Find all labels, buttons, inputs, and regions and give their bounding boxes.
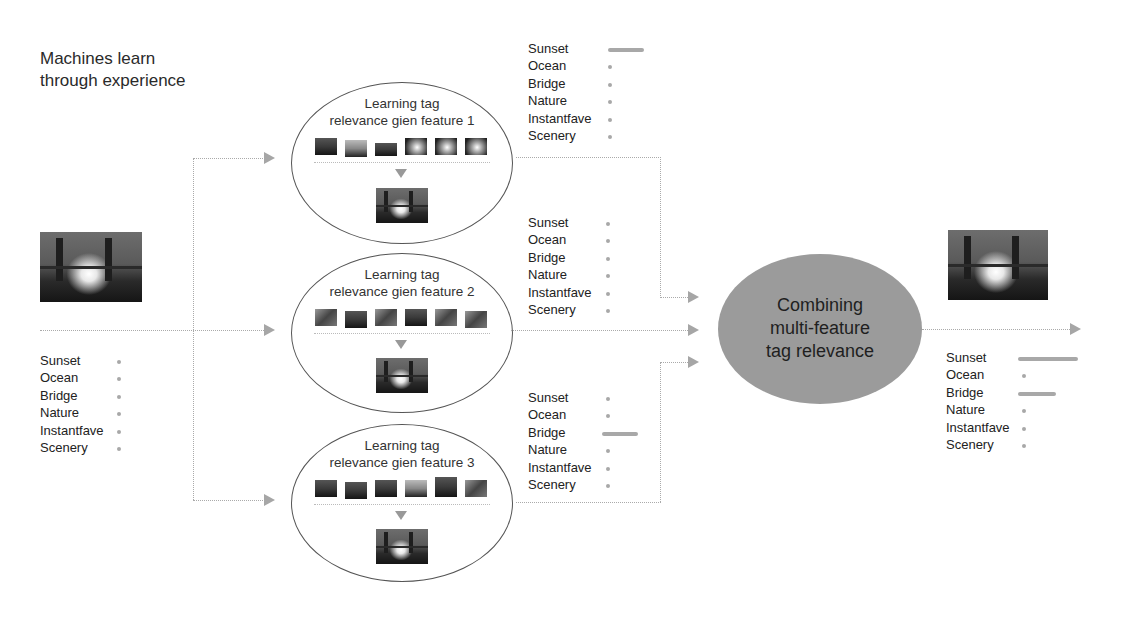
tag-row: Nature <box>40 404 140 421</box>
arrow-right-icon <box>264 324 275 336</box>
feature-thumbnail <box>375 480 397 497</box>
feature-1-title-line1: Learning tag <box>292 95 512 112</box>
connector-line <box>660 157 661 298</box>
feature-thumbnail <box>465 480 487 497</box>
output-photo <box>948 230 1048 300</box>
tag-row: Sunset <box>40 352 140 369</box>
feature-thumbnail <box>345 482 367 499</box>
feature-thumbnail <box>345 140 367 157</box>
feature-1-oval: Learning tag relevance gien feature 1 <box>291 82 513 244</box>
tag-row: Sunset <box>528 40 668 57</box>
arrow-right-icon <box>1070 323 1081 335</box>
connector-line <box>660 362 688 363</box>
tag-row: Ocean <box>528 406 668 423</box>
combine-node: Combining multi-feature tag relevance <box>718 254 922 404</box>
arrow-down-icon <box>395 340 407 349</box>
combine-line-3: tag relevance <box>718 340 922 363</box>
feature-thumbnail <box>405 138 427 155</box>
tag-row: Sunset <box>528 389 668 406</box>
tag-row: Ocean <box>946 366 1096 383</box>
tag-row: Instantfave <box>40 422 140 439</box>
arrow-right-icon <box>264 494 275 506</box>
feature-1-tag-list: Sunset Ocean Bridge Nature Instantfave S… <box>528 40 668 144</box>
combine-line-2: multi-feature <box>718 317 922 340</box>
tag-row: Nature <box>946 401 1096 418</box>
tag-row: Ocean <box>528 57 668 74</box>
arrow-right-icon <box>688 356 699 368</box>
tag-row: Sunset <box>946 349 1096 366</box>
tag-row: Bridge <box>946 384 1096 401</box>
feature-1-result-photo <box>376 188 428 223</box>
tag-row: Scenery <box>528 127 668 144</box>
tag-row: Sunset <box>528 214 668 231</box>
feature-thumbnail <box>435 477 457 497</box>
tag-row: Ocean <box>40 369 140 386</box>
feature-2-oval: Learning tag relevance gien feature 2 <box>291 253 513 413</box>
feature-thumbnail <box>435 138 457 155</box>
tag-row: Nature <box>528 441 668 458</box>
feature-thumbnail <box>375 309 397 326</box>
tag-row: Scenery <box>528 476 668 493</box>
tag-row: Scenery <box>528 301 668 318</box>
tag-row: Bridge <box>528 424 668 441</box>
feature-thumbnail <box>405 480 427 497</box>
feature-thumbnail <box>315 309 337 326</box>
tag-row: Instantfave <box>528 459 668 476</box>
feature-thumbnail <box>405 309 427 326</box>
feature-thumbnail <box>315 138 337 155</box>
arrow-right-icon <box>264 152 275 164</box>
feature-thumbnail <box>465 138 487 155</box>
tag-row: Nature <box>528 92 668 109</box>
input-photo <box>40 232 142 302</box>
feature-1-title-line2: relevance gien feature 1 <box>292 112 512 129</box>
feature-thumbnail <box>375 143 397 156</box>
title-line-2: through experience <box>40 70 186 92</box>
feature-thumbnail <box>435 309 457 326</box>
connector-line <box>40 330 264 331</box>
feature-3-tag-list: Sunset Ocean Bridge Nature Instantfave S… <box>528 389 668 493</box>
connector-line <box>516 157 661 158</box>
tag-row: Bridge <box>528 249 668 266</box>
feature-2-tag-list: Sunset Ocean Bridge Nature Instantfave S… <box>528 214 668 318</box>
feature-2-result-photo <box>376 358 428 393</box>
arrow-right-icon <box>688 324 699 336</box>
connector-line <box>193 158 194 500</box>
tag-row: Instantfave <box>528 284 668 301</box>
diagram-title: Machines learn through experience <box>40 48 186 92</box>
connector-line <box>922 329 1070 330</box>
feature-thumbnail <box>465 311 487 328</box>
arrow-right-icon <box>688 291 699 303</box>
tag-row: Nature <box>528 266 668 283</box>
connector-line <box>193 500 263 501</box>
feature-2-title-line1: Learning tag <box>292 266 512 283</box>
feature-3-oval: Learning tag relevance gien feature 3 <box>291 424 513 582</box>
output-tag-list: Sunset Ocean Bridge Nature Instantfave S… <box>946 349 1096 453</box>
title-line-1: Machines learn <box>40 48 186 70</box>
connector-line <box>660 362 661 502</box>
arrow-down-icon <box>395 169 407 178</box>
tag-row: Bridge <box>40 387 140 404</box>
tag-row: Scenery <box>40 439 140 456</box>
tag-row: Scenery <box>946 436 1096 453</box>
connector-line <box>511 330 688 331</box>
feature-3-title-line2: relevance gien feature 3 <box>292 454 512 471</box>
feature-thumbnail <box>345 311 367 328</box>
combine-line-1: Combining <box>718 294 922 317</box>
feature-2-title-line2: relevance gien feature 2 <box>292 283 512 300</box>
feature-3-title-line1: Learning tag <box>292 437 512 454</box>
connector-line <box>516 502 661 503</box>
feature-3-result-photo <box>376 529 428 564</box>
feature-thumbnail <box>315 480 337 497</box>
connector-line <box>193 158 263 159</box>
tag-row: Ocean <box>528 231 668 248</box>
input-tag-list: Sunset Ocean Bridge Nature Instantfave S… <box>40 352 140 456</box>
tag-row: Bridge <box>528 75 668 92</box>
arrow-down-icon <box>395 511 407 520</box>
tag-row: Instantfave <box>946 419 1096 436</box>
connector-line <box>660 297 688 298</box>
tag-row: Instantfave <box>528 110 668 127</box>
